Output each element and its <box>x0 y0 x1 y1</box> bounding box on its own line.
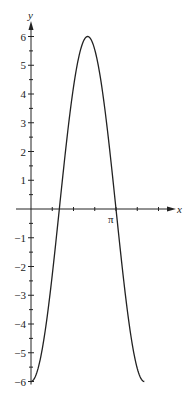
y-tick-label: −6 <box>14 376 26 388</box>
y-tick-label: −1 <box>14 232 26 244</box>
y-axis-label: y <box>27 9 33 21</box>
y-tick-label: −2 <box>14 261 26 273</box>
y-tick-label: 3 <box>21 117 27 129</box>
y-tick-label: 5 <box>21 59 27 71</box>
y-tick-label: −4 <box>14 318 26 330</box>
y-tick-label: −5 <box>14 347 26 359</box>
y-tick-label: 2 <box>21 146 27 158</box>
x-axis <box>16 207 176 212</box>
function-plot: −6−5−4−3−2−1123456 y x π <box>0 0 192 400</box>
y-tick-label: 4 <box>21 88 27 100</box>
y-axis <box>29 21 34 385</box>
x-tick-label-pi: π <box>108 213 114 225</box>
y-tick-label: 6 <box>21 31 27 43</box>
y-tick-label: −3 <box>14 289 26 301</box>
x-axis-label: x <box>176 203 182 215</box>
y-tick-label: 1 <box>21 174 27 186</box>
